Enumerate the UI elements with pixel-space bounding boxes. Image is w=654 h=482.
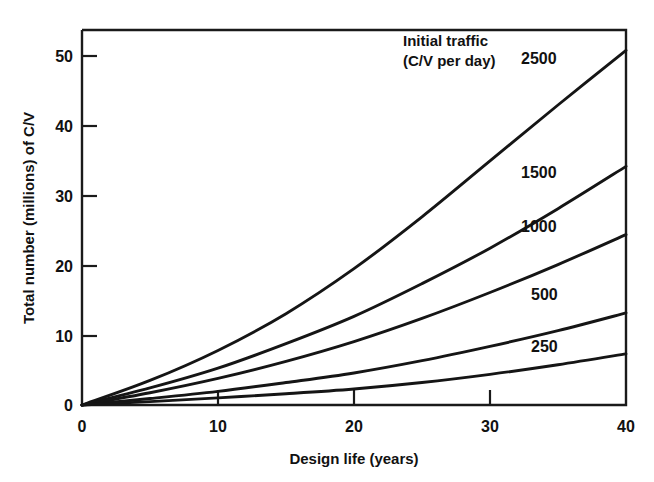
x-tick-label-30: 30 [481,418,499,435]
legend-title-line1: Initial traffic [403,32,488,49]
curve-1000 [82,235,626,405]
chart-svg: 50 40 30 20 10 0 0 10 20 30 40 Design li… [0,0,654,482]
chart-figure: 50 40 30 20 10 0 0 10 20 30 40 Design li… [0,0,654,482]
x-axis-ticks [218,390,490,405]
y-tick-label-10: 10 [55,328,73,345]
y-tick-label-40: 40 [55,118,73,135]
series-label-2500: 2500 [521,50,557,67]
y-tick-label-50: 50 [55,48,73,65]
x-tick-label-10: 10 [209,418,227,435]
x-tick-label-0: 0 [78,418,87,435]
series-label-1500: 1500 [521,164,557,181]
series-label-1000: 1000 [521,218,557,235]
y-axis-title: Total number (millions) of C/V [20,112,37,324]
legend-title-line2: (C/V per day) [403,52,496,69]
y-tick-label-30: 30 [55,188,73,205]
series-label-500: 500 [531,286,558,303]
y-tick-label-0: 0 [64,397,73,414]
x-tick-label-20: 20 [345,418,363,435]
x-axis-title: Design life (years) [289,450,418,467]
series-label-250: 250 [531,338,558,355]
y-tick-label-20: 20 [55,258,73,275]
y-axis-ticks [82,56,97,336]
x-tick-label-40: 40 [617,418,635,435]
